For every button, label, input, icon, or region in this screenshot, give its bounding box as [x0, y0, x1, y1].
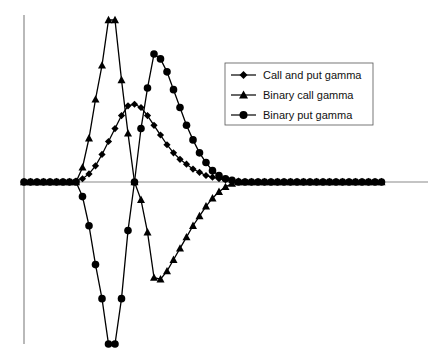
- data-point-binary-put-gamma: [137, 125, 145, 133]
- data-point-call-and-put-gamma: [98, 151, 105, 158]
- legend-label: Binary put gamma: [263, 109, 353, 121]
- data-point-call-and-put-gamma: [118, 112, 125, 119]
- data-point-binary-put-gamma: [280, 178, 288, 186]
- data-point-binary-put-gamma: [202, 159, 210, 167]
- data-point-binary-call-gamma: [85, 134, 93, 141]
- data-point-binary-call-gamma: [176, 244, 184, 251]
- data-point-binary-put-gamma: [235, 178, 243, 186]
- data-point-binary-put-gamma: [287, 178, 295, 186]
- data-point-binary-put-gamma: [319, 178, 327, 186]
- data-point-binary-put-gamma: [46, 178, 54, 186]
- data-point-binary-put-gamma: [111, 340, 119, 348]
- data-point-call-and-put-gamma: [150, 122, 157, 129]
- data-point-binary-put-gamma: [176, 104, 184, 112]
- data-point-binary-put-gamma: [326, 178, 334, 186]
- data-point-binary-put-gamma: [300, 178, 308, 186]
- data-point-binary-put-gamma: [248, 178, 256, 186]
- legend-label: Call and put gamma: [263, 69, 362, 81]
- data-point-binary-put-gamma: [228, 177, 236, 185]
- data-point-binary-put-gamma: [92, 261, 100, 269]
- data-point-call-and-put-gamma: [111, 125, 118, 132]
- data-point-binary-put-gamma: [144, 84, 152, 92]
- data-point-binary-call-gamma: [215, 188, 223, 195]
- data-point-binary-put-gamma: [345, 178, 353, 186]
- data-point-call-and-put-gamma: [196, 169, 203, 176]
- data-point-binary-put-gamma: [313, 178, 321, 186]
- series-binary-call-gamma: [20, 16, 386, 283]
- data-point-binary-put-gamma: [358, 178, 366, 186]
- series-line-binary-call-gamma: [24, 20, 382, 279]
- data-point-binary-put-gamma: [215, 172, 223, 180]
- data-point-binary-put-gamma: [20, 178, 28, 186]
- data-point-binary-call-gamma: [98, 61, 106, 68]
- legend: Call and put gamma Binary call gamma Bin…: [225, 63, 373, 125]
- data-point-call-and-put-gamma: [105, 138, 112, 145]
- data-point-binary-put-gamma: [105, 340, 113, 348]
- data-point-binary-put-gamma: [163, 68, 171, 76]
- data-point-binary-put-gamma: [267, 178, 275, 186]
- data-point-binary-put-gamma: [66, 178, 74, 186]
- data-point-binary-put-gamma: [53, 178, 61, 186]
- data-point-binary-put-gamma: [72, 178, 80, 186]
- data-point-call-and-put-gamma: [157, 131, 164, 138]
- data-point-binary-call-gamma: [79, 163, 87, 170]
- data-point-binary-call-gamma: [183, 233, 191, 240]
- data-point-binary-put-gamma: [378, 178, 386, 186]
- data-point-binary-call-gamma: [124, 129, 132, 136]
- data-point-binary-put-gamma: [85, 222, 93, 230]
- data-point-binary-call-gamma: [118, 76, 126, 83]
- data-point-binary-put-gamma: [27, 178, 35, 186]
- data-point-binary-put-gamma: [352, 178, 360, 186]
- data-point-call-and-put-gamma: [131, 101, 138, 108]
- chart: Call and put gamma Binary call gamma Bin…: [0, 0, 444, 359]
- circle-marker-icon: [240, 111, 248, 119]
- data-point-binary-put-gamma: [332, 178, 340, 186]
- legend-label: Binary call gamma: [263, 89, 354, 101]
- data-point-binary-put-gamma: [261, 178, 269, 186]
- data-point-binary-put-gamma: [339, 178, 347, 186]
- data-point-binary-put-gamma: [293, 178, 301, 186]
- data-point-binary-put-gamma: [183, 122, 191, 130]
- data-point-binary-call-gamma: [150, 273, 158, 280]
- data-point-binary-put-gamma: [79, 193, 87, 201]
- data-point-binary-put-gamma: [40, 178, 48, 186]
- data-point-binary-put-gamma: [241, 178, 249, 186]
- data-point-binary-call-gamma: [170, 256, 178, 263]
- data-point-binary-put-gamma: [196, 149, 204, 157]
- data-point-binary-put-gamma: [59, 178, 67, 186]
- data-point-binary-put-gamma: [170, 86, 178, 94]
- data-point-binary-put-gamma: [209, 167, 217, 175]
- data-point-binary-put-gamma: [33, 178, 41, 186]
- data-point-binary-call-gamma: [92, 95, 100, 102]
- data-point-binary-call-gamma: [144, 228, 152, 235]
- data-point-binary-put-gamma: [365, 178, 373, 186]
- data-point-binary-put-gamma: [306, 178, 314, 186]
- data-point-binary-put-gamma: [131, 178, 139, 186]
- data-point-binary-put-gamma: [118, 295, 126, 303]
- data-point-binary-put-gamma: [124, 227, 132, 235]
- data-point-binary-call-gamma: [137, 196, 145, 203]
- data-point-binary-call-gamma: [163, 267, 171, 274]
- data-point-binary-put-gamma: [254, 178, 262, 186]
- data-point-binary-put-gamma: [150, 50, 158, 58]
- data-point-binary-put-gamma: [189, 136, 197, 144]
- data-point-call-and-put-gamma: [209, 174, 216, 181]
- data-point-binary-put-gamma: [371, 178, 379, 186]
- data-point-binary-put-gamma: [222, 175, 230, 183]
- data-point-binary-put-gamma: [157, 55, 165, 63]
- data-point-call-and-put-gamma: [202, 172, 209, 179]
- data-point-binary-put-gamma: [274, 178, 282, 186]
- data-point-binary-put-gamma: [98, 295, 106, 303]
